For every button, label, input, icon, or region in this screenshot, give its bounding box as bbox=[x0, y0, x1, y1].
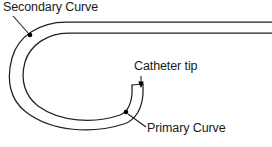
label-primary-curve: Primary Curve bbox=[147, 122, 226, 135]
label-catheter-tip: Catheter tip bbox=[134, 60, 197, 73]
secondary-curve-marker-dot bbox=[28, 33, 33, 38]
primary-curve-marker-dot bbox=[124, 110, 129, 115]
catheter-outer-wall bbox=[9, 22, 272, 130]
catheter-inner-wall bbox=[23, 33, 272, 120]
label-secondary-curve: Secondary Curve bbox=[3, 1, 98, 14]
catheter-illustration bbox=[0, 0, 272, 147]
catheter-diagram: Secondary Curve Catheter tip Primary Cur… bbox=[0, 0, 272, 147]
secondary-curve-leader-line bbox=[13, 16, 29, 34]
